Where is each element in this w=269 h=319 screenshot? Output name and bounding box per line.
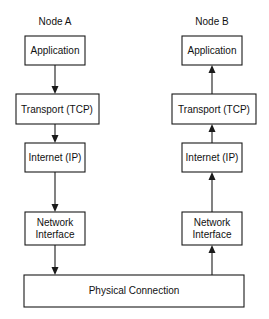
layer-label: Application [188,45,237,56]
node-a-internet-box: Internet (IP) [25,143,85,172]
layer-label-line2: Interface [193,229,232,240]
arrow-down-a-internet-network [52,172,59,212]
node-a-network-interface-box: Network Interface [25,212,85,245]
node-b-label: Node B [195,16,229,27]
arrow-up-b-internet-transport [209,124,216,143]
physical-connection-label: Physical Connection [89,285,180,296]
layer-label: Network [37,217,75,228]
physical-connection-box: Physical Connection [24,275,244,307]
layer-label: Internet (IP) [186,152,239,163]
node-a-transport-box: Transport (TCP) [16,94,99,124]
arrow-down-a-transport-internet [52,124,59,143]
arrow-up-b-transport-app [209,65,216,94]
node-b-network-interface-box: Network Interface [182,212,242,245]
node-a-application-box: Application [25,36,85,65]
layer-label: Transport (TCP) [178,104,250,115]
layer-label: Network [194,217,232,228]
arrow-up-b-physical-network [209,245,216,275]
layer-label: Internet (IP) [29,152,82,163]
node-a-label: Node A [39,16,72,27]
layer-label: Application [31,45,80,56]
node-b-internet-box: Internet (IP) [182,143,242,172]
node-b-transport-box: Transport (TCP) [172,94,256,124]
node-b-application-box: Application [182,36,242,65]
layer-label: Transport (TCP) [21,104,93,115]
arrow-down-a-app-transport [52,65,59,94]
layer-label-line2: Interface [36,229,75,240]
arrow-up-b-network-internet [209,172,216,212]
protocol-stack-diagram: Node A Node B Application Transport (TCP… [0,0,269,319]
arrow-down-a-network-physical [52,245,59,275]
